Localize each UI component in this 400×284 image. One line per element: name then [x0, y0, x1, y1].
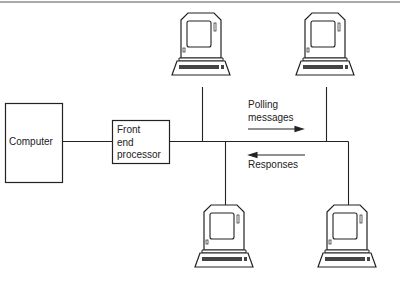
terminal-top-right-icon — [296, 13, 354, 75]
terminal-bottom-left-icon — [195, 205, 253, 267]
responses-label: Responses — [248, 159, 298, 170]
fep-label-line1: Front — [117, 124, 140, 135]
fep-label-line3: processor — [117, 149, 161, 160]
polling-label-line1: Polling — [248, 99, 278, 110]
computer-label: Computer — [9, 136, 53, 147]
bus-lines — [62, 87, 349, 205]
terminal-bottom-right-icon — [318, 205, 376, 267]
network-diagram — [0, 0, 400, 284]
fep-label-line2: end — [117, 137, 134, 148]
terminal-top-left-icon — [172, 13, 230, 75]
polling-label-line2: messages — [248, 112, 294, 123]
